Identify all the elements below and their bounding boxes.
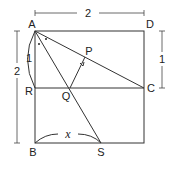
point-label-b: B (29, 146, 36, 158)
angle-x-label: x (64, 127, 71, 141)
geometry-diagram: 2 2 1 1 x A D C R Q P B S (0, 0, 175, 169)
point-label-c: C (147, 82, 155, 94)
arc-ar-label: 1 (26, 52, 32, 64)
point-label-a: A (28, 18, 36, 30)
angle-dot-1 (38, 43, 40, 45)
dim-right-label: 1 (159, 53, 165, 65)
angle-dot-2 (45, 38, 47, 40)
dim-top-label: 2 (85, 7, 91, 19)
point-label-s: S (97, 146, 104, 158)
arc-bs (35, 134, 58, 143)
point-label-r: R (25, 85, 33, 97)
dim-left-label: 2 (14, 65, 20, 77)
point-label-d: D (146, 18, 154, 30)
arc-bs-2 (78, 134, 101, 143)
segment-qp (70, 57, 85, 88)
point-label-q: Q (62, 90, 71, 102)
point-label-p: P (85, 45, 92, 57)
